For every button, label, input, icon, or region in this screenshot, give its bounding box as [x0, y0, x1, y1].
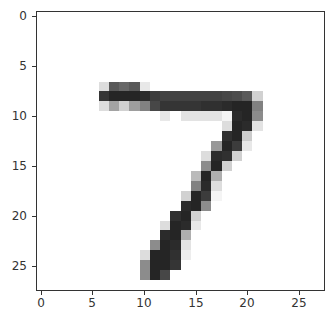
image-pixel [191, 171, 201, 181]
image-pixel [160, 191, 170, 201]
image-pixel [78, 250, 88, 260]
image-pixel [170, 62, 180, 72]
image-pixel [293, 161, 303, 171]
image-pixel [88, 280, 98, 290]
image-pixel [293, 221, 303, 231]
image-pixel [232, 111, 242, 121]
image-pixel [37, 12, 47, 22]
image-pixel [150, 191, 160, 201]
image-pixel [293, 62, 303, 72]
image-pixel [150, 12, 160, 22]
image-pixel [273, 191, 283, 201]
image-pixel [37, 42, 47, 52]
image-pixel [222, 260, 232, 270]
image-pixel [252, 250, 262, 260]
image-pixel [58, 201, 68, 211]
image-pixel [232, 181, 242, 191]
image-pixel [283, 72, 293, 82]
image-pixel [314, 42, 324, 52]
image-pixel [109, 121, 119, 131]
image-pixel [304, 230, 314, 240]
image-pixel [68, 42, 78, 52]
image-pixel [191, 280, 201, 290]
image-pixel [314, 270, 324, 280]
image-pixel [58, 161, 68, 171]
image-pixel [201, 270, 211, 280]
image-pixel [181, 52, 191, 62]
image-pixel [201, 22, 211, 32]
image-pixel [201, 82, 211, 92]
image-pixel [37, 260, 47, 270]
image-pixel [242, 42, 252, 52]
image-pixel [78, 22, 88, 32]
image-pixel [211, 171, 221, 181]
image-pixel [129, 151, 139, 161]
image-pixel [232, 171, 242, 181]
image-pixel [304, 211, 314, 221]
image-pixel [37, 32, 47, 42]
image-pixel [314, 82, 324, 92]
image-pixel [283, 280, 293, 290]
image-pixel [88, 161, 98, 171]
image-pixel [232, 201, 242, 211]
image-pixel [242, 82, 252, 92]
image-pixel [150, 221, 160, 231]
image-pixel [273, 280, 283, 290]
image-pixel [88, 151, 98, 161]
image-pixel [88, 240, 98, 250]
image-pixel [99, 191, 109, 201]
image-pixel [304, 91, 314, 101]
image-pixel [88, 72, 98, 82]
image-pixel [119, 191, 129, 201]
image-pixel [293, 12, 303, 22]
image-pixel [140, 42, 150, 52]
image-pixel [37, 280, 47, 290]
image-pixel [191, 101, 201, 111]
image-pixel [160, 171, 170, 181]
image-pixel [263, 62, 273, 72]
image-pixel [160, 280, 170, 290]
image-pixel [201, 171, 211, 181]
image-pixel [129, 211, 139, 221]
image-pixel [273, 181, 283, 191]
image-pixel [263, 191, 273, 201]
image-pixel [191, 22, 201, 32]
image-pixel [68, 141, 78, 151]
image-pixel [88, 181, 98, 191]
image-pixel [191, 151, 201, 161]
image-pixel [37, 221, 47, 231]
image-pixel [304, 72, 314, 82]
image-pixel [232, 12, 242, 22]
image-pixel [68, 181, 78, 191]
image-pixel [181, 181, 191, 191]
image-pixel [181, 211, 191, 221]
image-pixel [170, 221, 180, 231]
image-pixel [304, 32, 314, 42]
image-pixel [119, 111, 129, 121]
image-pixel [119, 280, 129, 290]
image-pixel [160, 101, 170, 111]
image-pixel [252, 52, 262, 62]
image-pixel [109, 250, 119, 260]
image-pixel [283, 42, 293, 52]
image-pixel [109, 161, 119, 171]
image-pixel [99, 52, 109, 62]
image-pixel [88, 250, 98, 260]
image-pixel [88, 191, 98, 201]
image-pixel [129, 280, 139, 290]
image-pixel [252, 240, 262, 250]
image-pixel [140, 82, 150, 92]
image-pixel [283, 161, 293, 171]
image-pixel [119, 62, 129, 72]
image-pixel [37, 211, 47, 221]
image-pixel [88, 91, 98, 101]
image-pixel [211, 22, 221, 32]
image-pixel [160, 32, 170, 42]
image-pixel [222, 230, 232, 240]
image-pixel [47, 201, 57, 211]
image-pixel [314, 171, 324, 181]
image-pixel [263, 82, 273, 92]
image-pixel [304, 141, 314, 151]
image-pixel [283, 250, 293, 260]
image-pixel [160, 141, 170, 151]
